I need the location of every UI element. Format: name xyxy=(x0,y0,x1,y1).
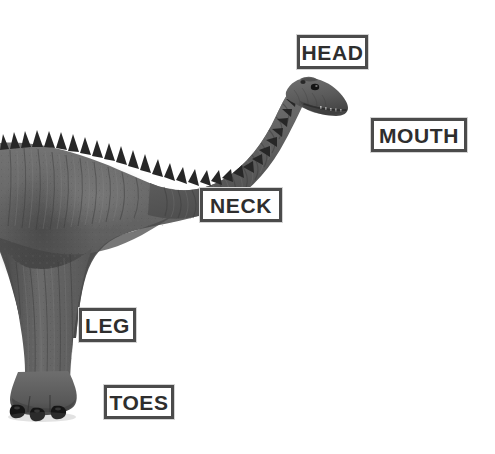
label-toes-text: TOES xyxy=(109,392,168,413)
label-mouth-text: MOUTH xyxy=(379,125,459,146)
label-head-text: HEAD xyxy=(302,42,364,63)
dinosaur-eye-highlight xyxy=(315,85,317,87)
dinosaur-diagram: HEAD MOUTH NECK LEG TOES xyxy=(0,0,495,454)
dinosaur-body-group xyxy=(0,77,348,422)
label-toes[interactable]: TOES xyxy=(104,385,174,419)
label-neck[interactable]: NECK xyxy=(200,188,282,222)
label-neck-text: NECK xyxy=(210,195,272,216)
dinosaur-eye xyxy=(311,84,319,90)
sauropod-dinosaur-illustration xyxy=(0,0,495,454)
label-leg[interactable]: LEG xyxy=(79,308,136,342)
ground-shadow xyxy=(8,412,76,422)
label-leg-text: LEG xyxy=(85,315,130,336)
label-head[interactable]: HEAD xyxy=(297,35,368,69)
label-mouth[interactable]: MOUTH xyxy=(371,118,467,152)
dinosaur-nostril xyxy=(300,80,305,84)
